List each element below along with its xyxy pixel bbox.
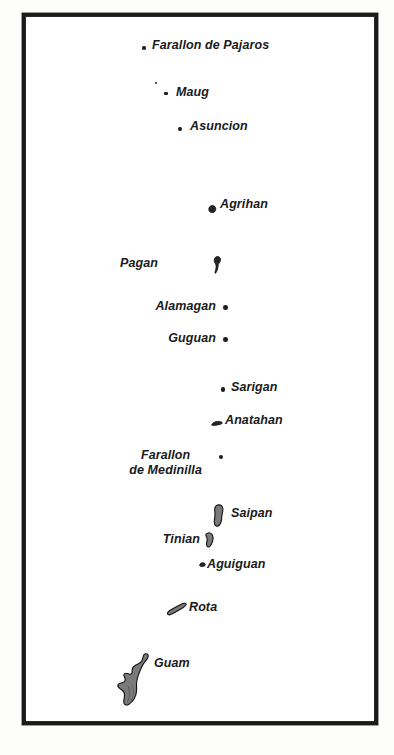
island-label-alamagan: Alamagan [155,300,216,314]
island-label-saipan: Saipan [231,507,273,521]
island-label-maug: Maug [176,86,209,100]
island-label-aguiguan: Aguiguan [207,558,265,572]
island-marker-dot [221,387,225,392]
island-label-pagan: Pagan [120,257,158,271]
island-label-anatahan: Anatahan [225,414,283,428]
island-shape-aguiguan [199,562,206,567]
map-page: Farallon de Pajaros Maug Asuncion Ag [0,0,394,755]
island-marker-dot-lower [164,92,168,95]
island-label-sarigan: Sarigan [231,381,278,395]
island-label-tinian: Tinian [163,533,200,547]
island-label-guam: Guam [154,657,190,671]
island-label-farallon-de-medinilla: Farallon de Medinilla [129,448,202,478]
island-label-guguan: Guguan [168,332,216,346]
island-shape-tinian [204,532,216,549]
map-canvas: Farallon de Pajaros Maug Asuncion Ag [26,17,382,729]
island-label-line-2: de Medinilla [129,463,202,478]
island-label-rota: Rota [189,601,217,615]
island-label-farallon-de-pajaros: Farallon de Pajaros [152,39,269,53]
island-shape-agrihan [208,205,217,214]
island-shape-saipan [212,504,225,528]
map-frame-border: Farallon de Pajaros Maug Asuncion Ag [22,13,378,725]
island-marker-dot [142,46,146,50]
island-marker-dot [223,337,228,342]
island-shape-pagan [213,256,222,274]
island-label-agrihan: Agrihan [220,198,268,212]
island-marker-dot [223,305,228,310]
island-shape-rota [166,602,188,617]
island-shape-anatahan [211,420,223,427]
island-marker-dot-upper [155,82,157,84]
island-marker-dot [178,127,182,131]
island-marker-dot [219,455,223,459]
island-label-line-1: Farallon [129,448,202,463]
island-label-asuncion: Asuncion [190,120,248,134]
